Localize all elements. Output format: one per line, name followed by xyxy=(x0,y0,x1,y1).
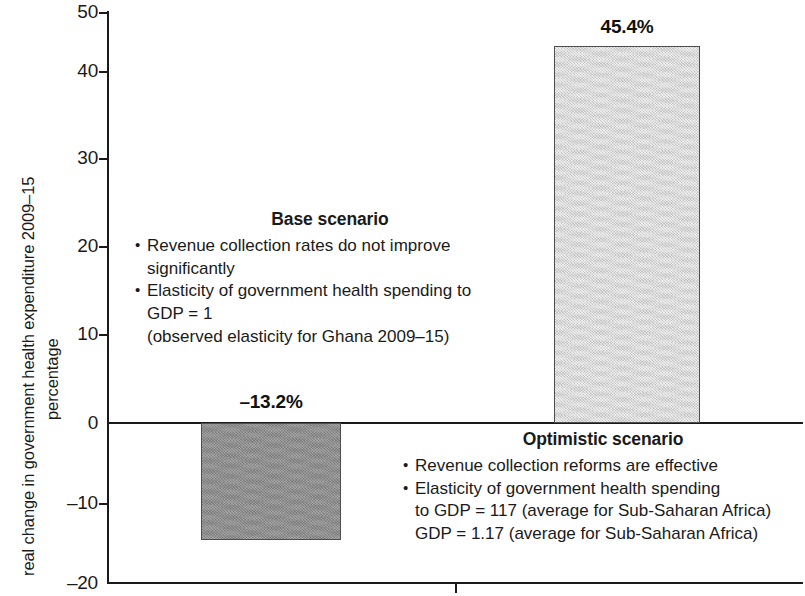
bar-value-base-scenario: –13.2% xyxy=(201,391,341,413)
list-item-text: Revenue collection reforms are effective xyxy=(415,456,718,475)
list-item-text: (observed elasticity for Ghana 2009–15) xyxy=(147,327,449,346)
list-item-continuation: significantly xyxy=(147,258,525,281)
list-item-continuation: to GDP = 117 (average for Sub-Saharan Af… xyxy=(415,500,803,523)
list-item: (observed elasticity for Ghana 2009–15) xyxy=(135,326,525,349)
annotation-base-scenario: Base scenario Revenue collection rates d… xyxy=(135,208,525,348)
list-item-text: GDP = 1.17 (average for Sub-Saharan Afri… xyxy=(415,524,758,543)
annotation-optimistic-scenario: Optimistic scenario Revenue collection r… xyxy=(403,428,803,546)
y-axis-tick-labels: 50 40 30 20 10 0 –10 –20 xyxy=(46,0,98,596)
list-item: Revenue collection reforms are effective xyxy=(403,455,803,478)
y-tick-label-20: 20 xyxy=(46,235,98,257)
list-item-text: Elasticity of government health spending… xyxy=(147,281,471,300)
list-item: Revenue collection rates do not improve … xyxy=(135,235,525,280)
list-item-continuation: GDP = 1 xyxy=(147,303,525,326)
annotation-optimistic-list: Revenue collection reforms are effective… xyxy=(403,455,803,545)
annotation-base-title: Base scenario xyxy=(135,208,525,231)
y-tick-label-50: 50 xyxy=(46,1,98,23)
bar-base-scenario[interactable] xyxy=(201,423,341,540)
y-tick-label-30: 30 xyxy=(46,147,98,169)
y-axis-title-line1: real change in government health expendi… xyxy=(19,177,38,576)
y-tick-label-neg20: –20 xyxy=(46,572,98,594)
bar-value-optimistic-scenario: 45.4% xyxy=(554,16,700,38)
list-item-text: Revenue collection rates do not improve xyxy=(147,236,450,255)
list-item: GDP = 1.17 (average for Sub-Saharan Afri… xyxy=(403,523,803,546)
y-tick-label-40: 40 xyxy=(46,60,98,82)
annotation-optimistic-title: Optimistic scenario xyxy=(403,428,803,451)
y-tick-label-0: 0 xyxy=(46,412,98,434)
y-tick-label-10: 10 xyxy=(46,323,98,345)
list-item: Elasticity of government health spending… xyxy=(403,478,803,523)
bar-chart-figure: real change in government health expendi… xyxy=(0,0,805,596)
y-tick-label-neg10: –10 xyxy=(46,492,98,514)
list-item: Elasticity of government health spending… xyxy=(135,280,525,325)
bar-optimistic-scenario[interactable] xyxy=(554,46,700,423)
annotation-base-list: Revenue collection rates do not improve … xyxy=(135,235,525,348)
y-axis-title: real change in government health expendi… xyxy=(0,0,46,596)
list-item-text: Elasticity of government health spending xyxy=(415,479,720,498)
